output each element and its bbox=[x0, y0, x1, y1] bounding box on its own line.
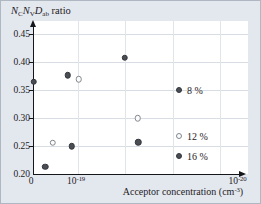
y-axis-title: NCNVDab ratio bbox=[11, 5, 71, 18]
y-tick-label: 0.45 bbox=[3, 29, 30, 39]
h-gridline bbox=[33, 62, 248, 63]
data-point-8pct bbox=[122, 54, 129, 61]
legend-label: 12 % bbox=[187, 130, 208, 141]
legend-label: 16 % bbox=[187, 151, 208, 162]
y-tick-label: 0.25 bbox=[3, 141, 30, 151]
v-gridline bbox=[78, 21, 79, 174]
y-tick-label: 0.40 bbox=[3, 57, 30, 67]
y-tick-mark bbox=[29, 118, 33, 119]
data-point-16pct bbox=[42, 163, 49, 170]
x-tick-base: 10 bbox=[229, 176, 239, 186]
legend-marker-icon bbox=[176, 133, 182, 139]
x-axis-title-text: Acceptor concentration (cm bbox=[123, 186, 235, 197]
y-tick-mark bbox=[29, 146, 33, 147]
y-tick-label: 0.35 bbox=[3, 85, 30, 95]
data-point-12pct bbox=[135, 115, 142, 122]
h-gridline bbox=[33, 90, 248, 91]
x-tick-base: 10 bbox=[67, 176, 77, 186]
y-tick-label: 0.20 bbox=[3, 169, 30, 179]
y-tick-mark bbox=[29, 90, 33, 91]
x-tick-label: 10-20 bbox=[229, 176, 247, 186]
y-tick-label: 0.30 bbox=[3, 113, 30, 123]
scatter-chart-figure: NCNVDab ratio 0.450.400.350.300.250.20 0… bbox=[0, 0, 261, 204]
x-axis-line bbox=[33, 174, 240, 175]
h-gridline bbox=[33, 34, 248, 35]
v-gridline bbox=[125, 21, 126, 174]
y-axis-arrow-icon bbox=[30, 20, 36, 27]
y-tick-mark bbox=[29, 62, 33, 63]
h-gridline bbox=[33, 146, 248, 147]
x-axis-title-text: ) bbox=[240, 186, 243, 197]
y-axis-title-segment: N bbox=[23, 5, 30, 16]
legend-marker-icon bbox=[176, 153, 182, 159]
x-tick-label: 10-19 bbox=[67, 176, 85, 186]
y-tick-mark bbox=[29, 34, 33, 35]
data-point-8pct bbox=[30, 78, 37, 85]
x-axis-title-exponent: -3 bbox=[234, 186, 239, 193]
data-point-16pct bbox=[135, 139, 142, 146]
legend-label: 8 % bbox=[187, 85, 203, 96]
data-point-8pct bbox=[64, 72, 71, 79]
x-tick-base: 0 bbox=[29, 176, 34, 186]
data-point-12pct bbox=[76, 76, 83, 83]
y-axis-title-segment: ab bbox=[42, 10, 49, 18]
x-tick-exponent: -19 bbox=[77, 175, 85, 182]
y-axis-line bbox=[33, 26, 34, 174]
y-axis-title-segment: N bbox=[11, 5, 18, 16]
x-tick-label: 0 bbox=[29, 176, 34, 186]
v-gridline bbox=[173, 21, 174, 174]
legend-marker-icon bbox=[176, 87, 182, 93]
data-point-12pct bbox=[49, 139, 56, 146]
x-tick-exponent: -20 bbox=[238, 175, 246, 182]
y-axis-title-segment: ratio bbox=[49, 5, 71, 16]
x-axis-title: Acceptor concentration (cm-3) bbox=[123, 186, 243, 197]
v-gridline bbox=[220, 21, 221, 174]
plot-area bbox=[33, 21, 248, 174]
data-point-16pct bbox=[68, 143, 75, 150]
